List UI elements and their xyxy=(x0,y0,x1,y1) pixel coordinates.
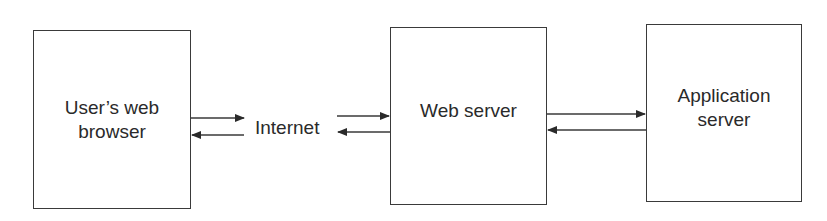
arrows-layer xyxy=(0,0,827,221)
